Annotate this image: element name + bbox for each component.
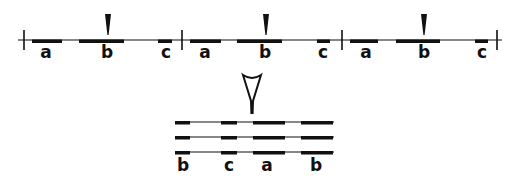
unit-2: abc	[190, 14, 330, 62]
stack-bar-b	[301, 151, 333, 155]
stack-row-3	[175, 151, 334, 155]
stack-label: b	[310, 155, 322, 175]
stack-bar-b	[175, 121, 190, 125]
stack-bar-c	[221, 121, 237, 125]
pointer-wedge-icon	[421, 14, 427, 35]
segment-label: b	[101, 42, 113, 62]
segment-label: a	[360, 42, 371, 62]
open-arrow-icon	[243, 75, 261, 113]
stack-bar-b	[301, 121, 333, 125]
stack-bar-a	[253, 121, 285, 125]
segment-label: c	[318, 42, 328, 62]
stack-label: a	[261, 155, 272, 175]
stack-bar-a	[253, 136, 285, 140]
pointer-wedge-icon	[263, 14, 269, 35]
stack-bar-b	[175, 151, 190, 155]
stack-bar-c	[221, 136, 237, 140]
unit-3: abc	[350, 14, 488, 62]
pointer-wedge-icon	[105, 14, 111, 35]
stack-bar-a	[253, 151, 285, 155]
segment-label: a	[199, 42, 210, 62]
sequence-diagram: abcabcabc bcab	[0, 0, 518, 185]
unit-1: abc	[32, 14, 172, 62]
stack-label: b	[177, 155, 189, 175]
segment-label: c	[161, 42, 171, 62]
segment-label: b	[259, 42, 271, 62]
bottom-stack: bcab	[175, 121, 334, 175]
segment-label: c	[477, 42, 487, 62]
segment-label: a	[40, 42, 51, 62]
stack-row-2	[175, 136, 334, 140]
top-sequence: abcabcabc	[18, 14, 502, 62]
stack-bar-b	[301, 136, 333, 140]
top-units: abcabcabc	[32, 14, 488, 62]
stack-bar-b	[175, 136, 190, 140]
stack-bar-c	[221, 151, 237, 155]
stack-row-1	[175, 121, 334, 125]
stack-label: c	[224, 155, 234, 175]
segment-label: b	[418, 42, 430, 62]
